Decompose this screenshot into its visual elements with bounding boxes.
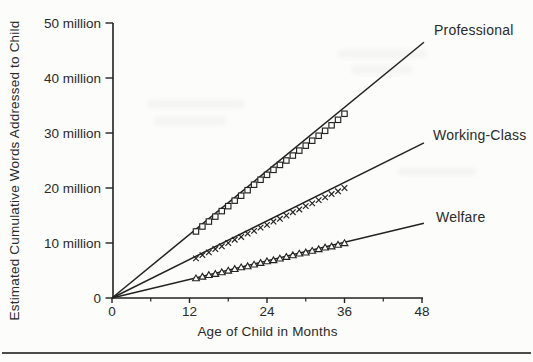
professional-marker-square bbox=[213, 214, 218, 219]
y-tick-label: 40 million bbox=[44, 71, 101, 86]
working-class-marker-cross bbox=[225, 240, 231, 246]
x-tick-label: 48 bbox=[414, 304, 429, 319]
working-class-marker-cross bbox=[303, 203, 309, 209]
working-class-marker-cross bbox=[264, 222, 270, 228]
professional-marker-square bbox=[251, 182, 256, 187]
professional-marker-square bbox=[329, 123, 334, 128]
professional-marker-square bbox=[271, 167, 276, 172]
working-class-marker-cross bbox=[290, 209, 296, 215]
professional-marker-square bbox=[226, 203, 231, 208]
working-class-marker-cross bbox=[219, 244, 225, 250]
x-tick-label: 36 bbox=[337, 304, 352, 319]
professional-marker-square bbox=[232, 198, 237, 203]
x-tick-label: 12 bbox=[182, 304, 197, 319]
y-axis-title: Estimated Cumulative Words Addressed to … bbox=[8, 20, 23, 320]
working-class-marker-cross bbox=[284, 213, 290, 219]
professional-marker-square bbox=[219, 208, 224, 213]
page-footer-rule bbox=[2, 352, 531, 354]
x-axis-title: Age of Child in Months bbox=[112, 324, 423, 339]
professional-marker-square bbox=[238, 193, 243, 198]
y-tick-label: 20 million bbox=[44, 181, 101, 196]
y-tick-label: 10 million bbox=[44, 236, 101, 251]
series-label-working-class: Working-Class bbox=[433, 127, 526, 143]
working-class-marker-cross bbox=[245, 231, 251, 237]
professional-marker-square bbox=[277, 162, 282, 167]
figure-scan: 010 million20 million30 million40 millio… bbox=[0, 0, 533, 362]
y-tick-label: 0 bbox=[93, 291, 101, 306]
working-class-marker-cross bbox=[296, 207, 302, 213]
y-tick-label: 30 million bbox=[44, 126, 101, 141]
axes bbox=[113, 23, 423, 298]
y-axis-title-wrap: Estimated Cumulative Words Addressed to … bbox=[0, 0, 30, 340]
working-class-marker-cross bbox=[342, 185, 348, 191]
chart-canvas: 010 million20 million30 million40 millio… bbox=[0, 0, 533, 362]
professional-marker-square bbox=[303, 143, 308, 148]
series-label-professional: Professional bbox=[434, 22, 513, 38]
professional-marker-square bbox=[284, 158, 289, 163]
professional-marker-square bbox=[264, 172, 269, 177]
professional-marker-square bbox=[290, 153, 295, 158]
professional-marker-square bbox=[310, 138, 315, 143]
working-class-marker-cross bbox=[251, 228, 257, 234]
x-tick-label: 0 bbox=[108, 304, 116, 319]
working-class-marker-cross bbox=[329, 191, 335, 197]
working-class-marker-cross bbox=[309, 201, 315, 207]
working-class-marker-cross bbox=[322, 195, 328, 201]
working-class-marker-cross bbox=[271, 219, 277, 225]
professional-marker-square bbox=[258, 177, 263, 182]
professional-marker-square bbox=[342, 111, 347, 116]
working-class-marker-cross bbox=[335, 189, 341, 195]
professional-marker-square bbox=[297, 148, 302, 153]
working-class-trend-line bbox=[112, 143, 424, 298]
y-tick-label: 50 million bbox=[44, 16, 101, 31]
working-class-marker-cross bbox=[316, 197, 322, 203]
professional-marker-square bbox=[200, 224, 205, 229]
series-label-welfare: Welfare bbox=[436, 209, 485, 225]
x-tick-label: 24 bbox=[259, 304, 275, 319]
professional-marker-square bbox=[206, 219, 211, 224]
professional-marker-square bbox=[335, 117, 340, 122]
professional-marker-square bbox=[193, 229, 198, 234]
working-class-marker-cross bbox=[238, 234, 244, 240]
professional-marker-square bbox=[322, 128, 327, 133]
professional-marker-square bbox=[316, 133, 321, 138]
working-class-marker-cross bbox=[258, 225, 264, 231]
professional-marker-square bbox=[245, 188, 250, 193]
working-class-marker-cross bbox=[277, 216, 283, 222]
